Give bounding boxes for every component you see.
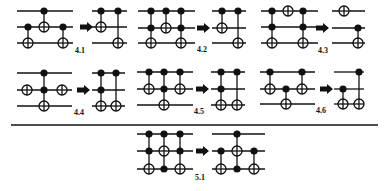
target-xor-icon <box>267 38 277 48</box>
circuit-lhs <box>137 68 193 110</box>
target-xor-icon <box>232 146 242 156</box>
target-xor-icon <box>144 164 154 174</box>
target-xor-icon <box>233 38 243 48</box>
identity-label: 4.6 <box>316 106 326 115</box>
identity-label: 5.1 <box>195 173 205 182</box>
target-xor-icon <box>216 164 226 174</box>
arrow-right-icon <box>197 23 210 33</box>
gate <box>144 130 154 174</box>
gate <box>249 147 259 174</box>
gate <box>265 68 275 94</box>
control-dot-icon <box>145 147 152 154</box>
control-dot-icon <box>177 7 184 14</box>
target-xor-icon <box>39 22 49 32</box>
target-xor-icon <box>176 38 186 48</box>
target-xor-icon <box>265 84 275 94</box>
identity-label: 4.5 <box>194 107 204 116</box>
arrow-right-icon <box>196 84 209 94</box>
gate <box>39 7 49 32</box>
control-dot-icon <box>177 24 184 31</box>
gate <box>39 69 49 111</box>
control-dot-icon <box>147 7 154 14</box>
gate <box>267 7 277 48</box>
target-xor-icon <box>22 85 32 95</box>
circuit-rhs <box>212 7 246 48</box>
target-xor-icon <box>23 38 33 48</box>
target-xor-icon <box>216 100 226 110</box>
identity-4-3: 4.3 <box>261 6 365 55</box>
gate <box>144 68 154 94</box>
target-xor-icon <box>298 38 308 48</box>
target-xor-icon <box>232 100 242 110</box>
control-dot-icon <box>282 85 289 92</box>
gate <box>57 85 67 95</box>
gate <box>22 85 32 95</box>
control-dot-icon <box>299 23 306 30</box>
target-xor-icon <box>113 38 123 48</box>
gate <box>159 130 169 172</box>
gate <box>339 6 349 16</box>
target-xor-icon <box>96 22 106 32</box>
gate <box>217 7 227 33</box>
gate <box>298 7 308 48</box>
control-dot-icon <box>145 130 152 137</box>
arrow-right-icon <box>196 146 209 156</box>
control-dot-icon <box>97 7 104 14</box>
gate <box>146 7 156 48</box>
control-dot-icon <box>160 165 167 172</box>
control-dot-icon <box>218 7 225 14</box>
control-dot-icon <box>217 147 224 154</box>
circuit-rhs <box>92 69 125 111</box>
target-xor-icon <box>159 100 169 110</box>
identity-label: 4.3 <box>318 46 328 55</box>
control-dot-icon <box>59 23 66 30</box>
control-dot-icon <box>233 68 240 75</box>
target-xor-icon <box>283 6 293 16</box>
target-xor-icon <box>339 6 349 16</box>
arrow-right-icon <box>316 23 329 33</box>
circuit-rhs <box>332 6 365 48</box>
control-dot-icon <box>97 86 104 93</box>
identity-4-1: 4.1 <box>17 7 127 55</box>
control-dot-icon <box>217 85 224 92</box>
arrow-right-icon <box>80 22 93 32</box>
control-dot-icon <box>114 7 121 14</box>
control-dot-icon <box>217 68 224 75</box>
gate <box>161 7 171 33</box>
control-dot-icon <box>162 7 169 14</box>
circuit-rhs <box>212 130 265 174</box>
target-xor-icon <box>175 84 185 94</box>
control-dot-icon <box>355 68 362 75</box>
arrow-right-icon <box>77 85 90 95</box>
gate <box>113 7 123 48</box>
identity-4-2: 4.2 <box>138 7 246 54</box>
target-xor-icon <box>144 84 154 94</box>
control-dot-icon <box>299 7 306 14</box>
identity-label: 4.4 <box>74 108 84 117</box>
control-dot-icon <box>176 130 183 137</box>
circuit-lhs <box>138 7 195 48</box>
gate <box>175 68 185 94</box>
target-xor-icon <box>111 101 121 111</box>
target-xor-icon <box>249 164 259 174</box>
target-xor-icon <box>161 23 171 33</box>
control-dot-icon <box>233 165 240 172</box>
control-dot-icon <box>40 69 47 76</box>
target-xor-icon <box>159 146 169 156</box>
control-dot-icon <box>147 24 154 31</box>
control-dot-icon <box>160 85 167 92</box>
target-xor-icon <box>39 101 49 111</box>
identity-label: 4.2 <box>197 45 207 54</box>
circuit-rhs <box>334 68 364 109</box>
circuit-lhs <box>17 69 72 111</box>
control-dot-icon <box>112 69 119 76</box>
control-dot-icon <box>97 69 104 76</box>
circuit-rhs <box>211 68 245 110</box>
identity-4-5: 4.5 <box>137 68 245 116</box>
control-dot-icon <box>145 68 152 75</box>
control-dot-icon <box>40 86 47 93</box>
control-dot-icon <box>268 7 275 14</box>
control-dot-icon <box>160 68 167 75</box>
control-dot-icon <box>160 130 167 137</box>
control-dot-icon <box>233 130 240 137</box>
